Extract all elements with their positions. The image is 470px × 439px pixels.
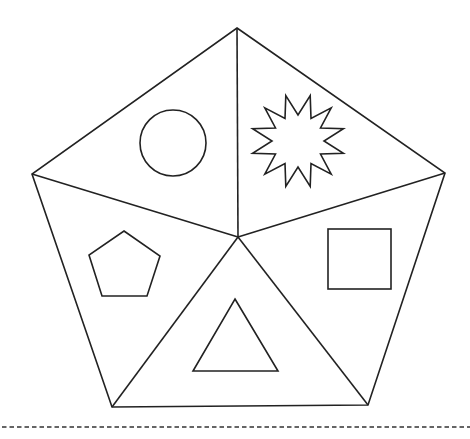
- dividing-lines: [32, 28, 445, 407]
- spoke-line-3: [112, 237, 238, 407]
- pentagon-shape: [89, 231, 160, 296]
- star-shape: [253, 96, 344, 187]
- circle-shape: [140, 110, 206, 176]
- triangle-shape: [193, 299, 278, 371]
- spoke-line-4: [32, 174, 238, 237]
- spoke-line-2: [238, 237, 368, 405]
- spoke-line-1: [238, 173, 445, 237]
- spoke-line-0: [237, 28, 238, 237]
- pentagon-diagram: [0, 0, 470, 439]
- square-shape: [328, 229, 391, 289]
